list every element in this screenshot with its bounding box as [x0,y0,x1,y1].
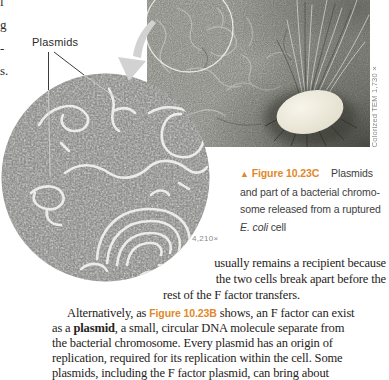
left-column-fragment: l [0,0,4,10]
body-text-line: usually remains a recipient because [214,256,386,271]
caption-text: Plasmids [331,167,373,179]
textbook-page: l g - s. [0,0,389,380]
caption-text: and part of a bacterial chromo- [240,184,389,202]
plasmids-micrograph [1,73,210,282]
caption-text: some released from a ruptured [240,201,389,219]
left-column-fragment: g [0,17,7,33]
tem-credit: Colorized TEM 1,730× [370,0,382,147]
body-text-line: the bacterial chromosome. Every plasmid … [52,336,333,351]
body-text-line: as a plasmid, a small, circular DNA mole… [52,321,344,336]
caption-text: E. coli cell [240,219,389,237]
body-text-line: replication, required for its replicatio… [52,351,342,366]
plasmids-label: Plasmids [32,36,78,48]
figure-cross-reference: Figure 10.23B [149,307,217,319]
key-term: plasmid [73,321,114,335]
magnification-label: 4,210× [192,234,219,243]
zoom-arrow-icon [105,8,165,93]
figure-number: Figure 10.23C [252,167,320,179]
body-text-line: plasmids, including the F factor plasmid… [52,366,329,380]
body-text-line: Alternatively, as Figure 10.23B shows, a… [67,306,354,321]
caption-triangle-icon: ▲ [240,169,249,179]
left-column-fragment: - [0,41,4,57]
figure-caption: ▲ Figure 10.23C Plasmids and part of a b… [240,165,389,236]
body-text-line: rest of the F factor transfers. [163,288,300,303]
body-text-line: the two cells break apart before the [216,272,386,287]
